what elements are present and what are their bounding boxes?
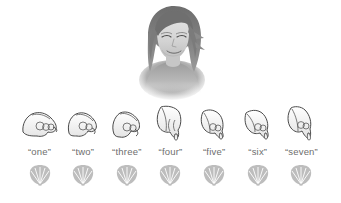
scallop-shell-icon [25,162,55,188]
scallop-shell-icon [199,162,229,188]
count-column-two: “two” [63,104,104,188]
scallop-shell-icon [68,162,98,188]
count-label: “five” [203,146,225,158]
hand-pointing-right-icon [106,104,147,144]
hand-pointing-right-icon [19,104,60,144]
count-column-four: “four” [150,104,191,188]
count-column-seven: “seven” [281,104,322,188]
count-label: “six” [248,146,267,158]
scallop-shell-icon [155,162,185,188]
counting-row: “one” [0,104,341,192]
count-column-six: “six” [237,104,278,188]
hand-pointing-right-icon [63,104,104,144]
count-column-three: “three” [106,104,147,188]
scallop-shell-icon [112,162,142,188]
hand-pointing-down-icon [281,104,322,144]
count-label: “three” [112,146,141,158]
hand-pointing-down-icon [237,104,278,144]
count-label: “seven” [285,146,318,158]
scallop-shell-icon [286,162,316,188]
count-label: “four” [159,146,183,158]
hand-pointing-down-icon [150,104,191,144]
hand-pointing-down-icon [194,104,235,144]
count-column-one: “one” [19,104,60,188]
count-label: “one” [28,146,51,158]
counting-illustration: “one” [0,0,341,203]
scallop-shell-icon [243,162,273,188]
count-column-five: “five” [194,104,235,188]
portrait-woman-looking-down [124,2,220,100]
count-label: “two” [72,146,94,158]
